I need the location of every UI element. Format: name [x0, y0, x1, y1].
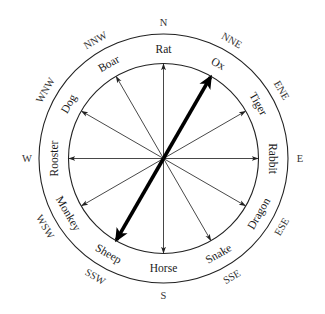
- animal-label-rat: Rat: [156, 43, 173, 55]
- animal-label-dog: Dog: [58, 92, 79, 116]
- compass-label-nnw: NNW: [82, 29, 109, 51]
- animal-label-tiger: Tiger: [246, 90, 270, 118]
- animal-label-rooster: Rooster: [48, 140, 60, 176]
- animal-label-snake: Snake: [203, 241, 233, 265]
- arrow-boar: [116, 77, 163, 159]
- compass-label-n: N: [160, 17, 168, 28]
- compass-label-w: W: [22, 153, 32, 164]
- animal-label-monkey: Monkey: [53, 194, 84, 234]
- animal-label-rabbit: Rabbit: [267, 143, 279, 174]
- animal-label-horse: Horse: [150, 262, 177, 274]
- thick-arrow-210: [117, 159, 164, 240]
- compass-label-e: E: [297, 153, 303, 164]
- compass-label-sse: SSE: [221, 267, 242, 286]
- compass-label-ssw: SSW: [83, 267, 107, 287]
- animal-label-ox: Ox: [209, 55, 227, 73]
- compass-label-nne: NNE: [220, 30, 244, 50]
- compass-label-ese: ESE: [272, 216, 291, 238]
- diagram-canvas: RatOxTigerRabbitDragonSnakeHorseSheepMon…: [0, 0, 325, 314]
- arrow-snake: [164, 159, 211, 241]
- thick-arrow-30: [164, 77, 211, 158]
- animal-label-boar: Boar: [96, 53, 122, 75]
- compass-label-ene: ENE: [272, 79, 292, 102]
- compass-label-s: S: [161, 290, 167, 301]
- zodiac-compass-diagram: RatOxTigerRabbitDragonSnakeHorseSheepMon…: [0, 0, 325, 314]
- arrow-dog: [82, 111, 164, 158]
- animal-label-sheep: Sheep: [93, 241, 124, 266]
- arrow-dragon: [164, 159, 246, 206]
